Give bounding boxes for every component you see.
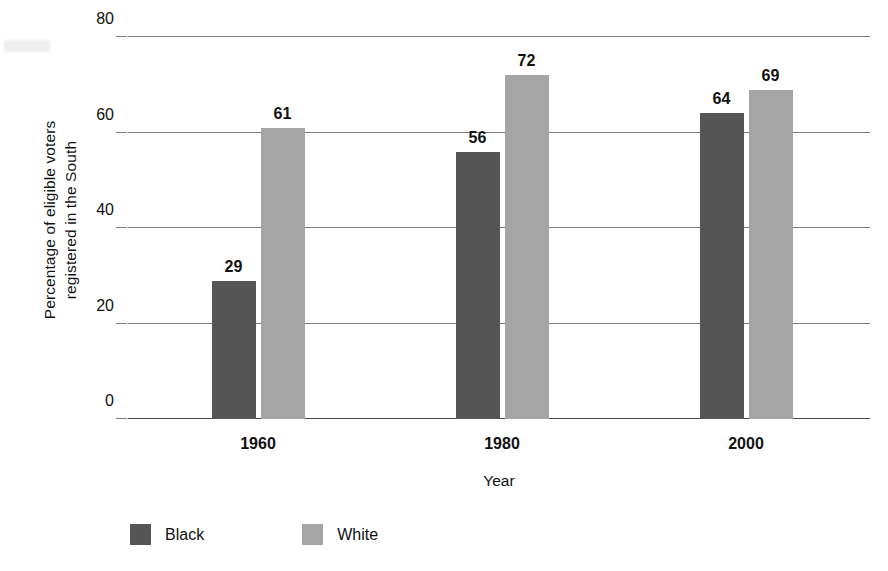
legend-item-black: Black xyxy=(130,524,204,545)
legend-item-white: White xyxy=(302,524,378,545)
bar-chart-figure: Percentage of eligible voters registered… xyxy=(0,0,888,571)
y-tick-mark xyxy=(116,323,127,324)
y-tick-mark xyxy=(116,227,127,228)
y-tick-label: 80 xyxy=(96,10,114,28)
legend-swatch-icon xyxy=(130,524,151,545)
y-tick-mark xyxy=(116,132,127,133)
y-axis-title-line-2: registered in the South xyxy=(60,121,81,320)
bar-value-label: 72 xyxy=(518,52,536,70)
bar-value-label: 56 xyxy=(469,129,487,147)
legend-label: White xyxy=(337,526,378,544)
x-axis-title: Year xyxy=(128,472,870,490)
bar-black-2000: 64 xyxy=(700,113,744,419)
y-tick-mark xyxy=(116,418,127,419)
bar-black-1980: 56 xyxy=(456,152,500,419)
bar-value-label: 61 xyxy=(274,105,292,123)
y-axis-title: Percentage of eligible voters registered… xyxy=(0,0,120,440)
x-tick-label-1960: 1960 xyxy=(240,435,276,453)
chart-legend: BlackWhite xyxy=(130,524,378,545)
y-axis-title-line-1: Percentage of eligible voters xyxy=(39,121,60,320)
x-tick-label-2000: 2000 xyxy=(728,435,764,453)
plot-area: 020406080296119605672198064692000 xyxy=(128,37,870,419)
bar-white-1980: 72 xyxy=(505,75,549,419)
bar-value-label: 69 xyxy=(762,67,780,85)
bar-value-label: 64 xyxy=(713,90,731,108)
legend-swatch-icon xyxy=(302,524,323,545)
y-tick-label: 20 xyxy=(96,297,114,315)
y-tick-mark xyxy=(116,36,127,37)
y-tick-label: 40 xyxy=(96,201,114,219)
y-tick-label: 0 xyxy=(105,392,114,410)
x-tick-label-1980: 1980 xyxy=(484,435,520,453)
bar-white-1960: 61 xyxy=(261,128,305,419)
bar-white-2000: 69 xyxy=(749,90,793,419)
gridline xyxy=(128,36,870,37)
y-tick-label: 60 xyxy=(96,106,114,124)
bar-black-1960: 29 xyxy=(212,281,256,419)
bar-value-label: 29 xyxy=(225,258,243,276)
legend-label: Black xyxy=(165,526,204,544)
